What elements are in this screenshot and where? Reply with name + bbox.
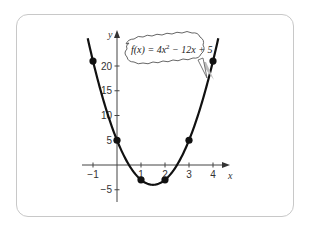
equation-text: f(x) = 4x2 − 12x + 5 — [131, 43, 213, 56]
y-axis-label: y — [107, 29, 113, 40]
y-tick-label: 5 — [106, 135, 112, 146]
x-tick-label: 4 — [210, 169, 216, 180]
data-point — [209, 57, 216, 64]
data-point — [185, 137, 192, 144]
y-axis-arrow-icon — [114, 30, 120, 38]
parabola-chart: x y −11234 2015105−5 f(x) = 4x2 − 12x + … — [0, 0, 312, 227]
x-tick-label: 3 — [186, 169, 192, 180]
data-point — [161, 176, 168, 183]
y-tick-label: −5 — [101, 184, 113, 195]
y-tick-label: 20 — [101, 61, 113, 72]
data-point — [137, 176, 144, 183]
equation-callout: f(x) = 4x2 − 12x + 5 — [125, 32, 214, 81]
x-axis-arrow-icon — [222, 162, 230, 168]
x-tick-label: −1 — [87, 169, 99, 180]
data-point — [113, 137, 120, 144]
x-axis-label: x — [227, 170, 233, 181]
data-point — [89, 57, 96, 64]
